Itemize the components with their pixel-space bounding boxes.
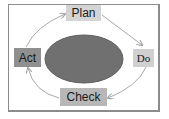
step-plan-label: Plan [71, 6, 95, 20]
step-do: Do [133, 49, 154, 67]
step-plan: Plan [66, 5, 101, 21]
step-act: Act [14, 48, 41, 67]
center-ellipse [45, 35, 123, 83]
step-do-label: Do [137, 52, 150, 64]
step-check-label: Check [66, 90, 100, 104]
step-act-label: Act [19, 51, 36, 65]
step-check: Check [60, 88, 107, 106]
